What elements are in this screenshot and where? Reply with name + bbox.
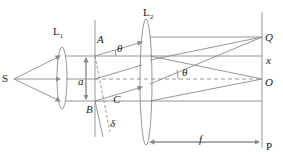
label-c-point: C: [113, 94, 120, 105]
label-delta: δ: [110, 118, 115, 129]
lens1-text: L: [53, 25, 60, 37]
label-theta-2: θ: [182, 67, 187, 78]
label-lens1: L1: [53, 26, 63, 40]
label-lens2: L2: [143, 7, 153, 21]
label-b-point: B: [86, 104, 93, 115]
diagram-lines: [0, 0, 283, 155]
label-q: Q: [265, 32, 273, 43]
label-theta-1: θ: [117, 43, 122, 54]
lens2-sub: 2: [150, 13, 154, 21]
label-source: S: [2, 73, 8, 84]
label-o: O: [265, 77, 273, 88]
lens-l1: [57, 47, 67, 109]
label-f: f: [199, 134, 202, 145]
label-screen-p: P: [266, 141, 272, 152]
lens-l2: [140, 19, 152, 145]
ray-s-top: [14, 56, 60, 79]
lens1-sub: 1: [60, 32, 64, 40]
lens2-text: L: [143, 6, 150, 18]
label-slit-width: a: [78, 76, 84, 87]
diffraction-diagram: S L1 L2 A B C a δ θ θ Q O x f P: [0, 0, 283, 155]
label-x: x: [266, 55, 271, 66]
ray-s-bot: [14, 79, 60, 101]
label-a-point: A: [97, 34, 104, 45]
